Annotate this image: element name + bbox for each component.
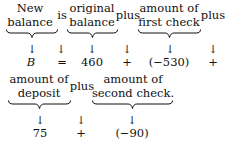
label-first-check-line1: amount of bbox=[140, 2, 199, 14]
underbrace-icon bbox=[6, 29, 58, 38]
down-arrow-icon: ↓ bbox=[122, 44, 131, 55]
underbrace-icon bbox=[138, 29, 201, 38]
symbol-plus: + bbox=[122, 56, 132, 68]
label-first-check-line2: first check bbox=[138, 16, 199, 28]
value-new-balance: B bbox=[27, 56, 35, 68]
label-original-balance-line1: original bbox=[69, 2, 114, 14]
down-arrow-icon: ↓ bbox=[76, 115, 85, 126]
label-second-check-line1: amount of bbox=[104, 73, 163, 85]
underbrace-icon bbox=[67, 29, 118, 38]
symbol-plus: + bbox=[76, 127, 86, 139]
value-original-balance: 460 bbox=[81, 56, 103, 68]
label-deposit-line1: amount of bbox=[10, 73, 69, 85]
connector-word-plus: plus bbox=[201, 9, 225, 21]
down-arrow-icon: ↓ bbox=[56, 44, 65, 55]
connector-word-plus: plus bbox=[116, 9, 140, 21]
down-arrow-icon: ↓ bbox=[27, 44, 36, 55]
connector-word-plus: plus bbox=[70, 80, 94, 92]
label-second-check-line2: second check. bbox=[92, 87, 174, 99]
label-deposit-line2: deposit bbox=[18, 87, 61, 99]
label-original-balance-line2: balance bbox=[69, 16, 114, 28]
underbrace-icon bbox=[8, 100, 71, 109]
connector-word-is: is bbox=[57, 9, 67, 21]
value-second-check: (−90) bbox=[115, 127, 148, 139]
symbol-plus: + bbox=[208, 56, 218, 68]
down-arrow-icon: ↓ bbox=[208, 44, 217, 55]
down-arrow-icon: ↓ bbox=[87, 44, 96, 55]
down-arrow-icon: ↓ bbox=[165, 44, 174, 55]
underbrace-icon bbox=[92, 100, 173, 109]
value-first-check: (−530) bbox=[149, 56, 190, 68]
label-new-balance-line2: balance bbox=[7, 16, 52, 28]
value-deposit: 75 bbox=[33, 127, 48, 139]
symbol-equals: = bbox=[57, 56, 67, 68]
down-arrow-icon: ↓ bbox=[127, 115, 136, 126]
down-arrow-icon: ↓ bbox=[35, 115, 44, 126]
label-new-balance-line1: New bbox=[17, 2, 44, 14]
